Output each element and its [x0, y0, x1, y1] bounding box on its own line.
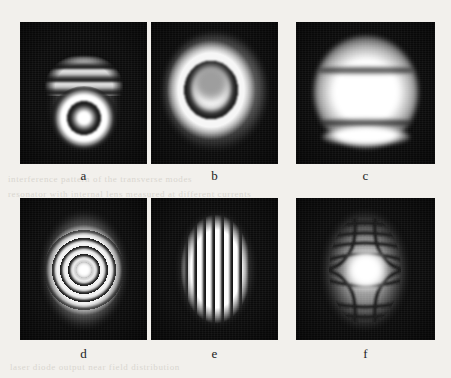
- panel-c-dark-fringe-upper: [318, 66, 414, 75]
- panel-label-e: e: [151, 346, 278, 362]
- panel-label-b: b: [151, 168, 278, 184]
- panel-c-dark-fringe-lower: [320, 118, 412, 128]
- panel-f-star-center: [346, 250, 386, 290]
- panel-c: [296, 22, 435, 164]
- panel-d-center-spot: [74, 260, 94, 280]
- panel-c-image: [296, 22, 435, 164]
- panel-f: [296, 198, 435, 340]
- panel-label-a: a: [20, 168, 147, 184]
- panel-e-image: [151, 198, 278, 340]
- panel-a: [20, 22, 147, 164]
- panel-f-image: [296, 198, 435, 340]
- panel-e: [151, 198, 278, 340]
- panel-a-core-rings: [50, 86, 118, 150]
- panel-b-center-spot: [189, 62, 233, 102]
- panel-d-image: [20, 198, 147, 340]
- panel-c-bright-lobe-bottom: [322, 128, 410, 146]
- panel-a-image: [20, 22, 147, 164]
- panel-e-vertical-fringes: [179, 212, 253, 326]
- panel-b-image: [151, 22, 278, 164]
- bleed-through-text-line-3: laser diode output near field distributi…: [10, 362, 180, 372]
- panel-label-f: f: [296, 346, 435, 362]
- panel-d: [20, 198, 147, 340]
- panel-b: [151, 22, 278, 164]
- figure-interferogram-grid: interference pattern of the transverse m…: [0, 0, 451, 378]
- panel-label-c: c: [296, 168, 435, 184]
- panel-label-d: d: [20, 346, 147, 362]
